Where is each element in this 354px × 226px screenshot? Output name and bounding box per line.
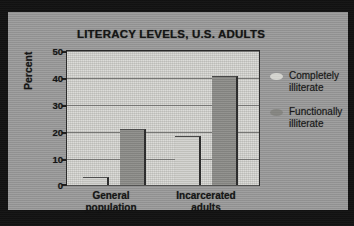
legend-label-line-2: illiterate: [289, 118, 342, 130]
legend-item-completely-illiterate: Completely illiterate: [270, 70, 354, 93]
legend-label-line-1: Functionally: [289, 106, 342, 118]
x-category-line-1: General: [68, 190, 154, 202]
legend-label-functionally-illiterate: Functionally illiterate: [289, 106, 342, 129]
y-tick-label-20: 20: [52, 127, 63, 138]
x-axis-category-incarcerated-adults: Incarcerated adults: [158, 190, 254, 213]
x-axis-category-general-population: General population: [68, 190, 154, 213]
y-tick-label-50: 50: [52, 46, 63, 57]
gridline-0: [67, 185, 259, 186]
plot-area: 50 40 30 20 10 0: [66, 50, 260, 186]
chart-title: LITERACY LEVELS, U.S. ADULTS: [66, 28, 276, 40]
y-tick-label-0: 0: [58, 180, 63, 191]
x-category-line-1: Incarcerated: [158, 190, 254, 202]
legend-label-line-2: illiterate: [289, 82, 339, 94]
gridline-50: [67, 51, 259, 52]
legend-item-functionally-illiterate: Functionally illiterate: [270, 106, 354, 129]
legend-label-line-1: Completely: [289, 70, 339, 82]
bar-general-population-completely-illiterate: [83, 177, 109, 185]
y-tick-label-40: 40: [52, 73, 63, 84]
chart-panel: LITERACY LEVELS, U.S. ADULTS Percent 50 …: [8, 12, 348, 210]
chart-legend: Completely illiterate Functionally illit…: [270, 70, 354, 142]
y-tick-label-30: 30: [52, 100, 63, 111]
scanned-chart-image: LITERACY LEVELS, U.S. ADULTS Percent 50 …: [0, 0, 354, 226]
legend-swatch-icon-completely-illiterate: [270, 73, 283, 80]
x-category-line-2: population: [68, 202, 154, 214]
bar-general-population-functionally-illiterate: [120, 129, 146, 185]
legend-swatch-icon-functionally-illiterate: [270, 109, 283, 116]
bar-incarcerated-adults-functionally-illiterate: [212, 76, 238, 185]
bar-incarcerated-adults-completely-illiterate: [175, 136, 201, 185]
legend-label-completely-illiterate: Completely illiterate: [289, 70, 339, 93]
x-category-line-2: adults: [158, 202, 254, 214]
y-tick-label-10: 10: [52, 154, 63, 165]
y-axis-label: Percent: [22, 51, 34, 90]
